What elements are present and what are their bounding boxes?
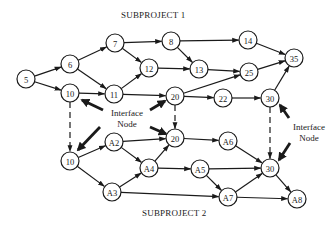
edge-25-to-35 [258,61,285,70]
edge-14-to-35 [256,43,285,54]
edge-7-to-8 [124,41,162,42]
node-label: 12 [145,64,154,74]
node-11-subproject1: 11 [105,85,123,103]
edge-12-to-13 [158,68,190,69]
interface-node-label-left-line1: Interface [111,108,143,118]
edge-20-to-22 [184,96,214,97]
node-label: A6 [223,137,233,147]
edge-8-to-13 [177,47,192,62]
edge-10-to-11 [79,93,105,94]
edge-7-to-12 [122,48,141,62]
edge-A7-to-A8 [237,197,288,198]
node-30-subproject1: 30 [261,89,279,107]
node-label: A8 [292,195,302,205]
node-label: 35 [290,54,299,64]
node-label: 7 [113,39,117,49]
node-label: 22 [219,94,228,104]
interface-pointer-arrow [78,127,100,150]
edge-30-to-A8 [276,175,291,192]
edge-A5-to-A7 [206,175,221,190]
interface-node-label-right-line1: Interface [293,122,325,132]
network-diagram: 56710111281314253520223010A2A3A420A6A530… [0,0,335,228]
edge-A4-to-20 [155,145,169,161]
node-label: A4 [144,164,155,174]
node-label: 11 [110,90,118,100]
edge-A2-to-A4 [121,147,141,162]
edge-8-to-14 [180,40,239,41]
node-A6-subproject2: A6 [219,132,237,150]
interface-pointer-arrow [280,105,289,118]
node-label: 20 [171,92,180,102]
node-7-subproject1: 7 [106,34,124,52]
node-label: 10 [66,89,75,99]
node-label: 13 [195,65,204,75]
edge-11-to-20 [123,94,166,95]
interface-pointer-arrow [82,100,103,110]
edge-20-to-25 [184,75,240,93]
node-30-subproject2: 30 [261,159,279,177]
edge-30-to-35 [275,66,289,90]
node-label: 8 [169,37,173,47]
interface-pointer-arrow [150,101,165,110]
node-label: 25 [245,68,254,78]
edge-11-to-12 [121,74,141,89]
node-A7-subproject2: A7 [219,188,237,206]
node-A2-subproject2: A2 [105,133,123,151]
node-5-subproject1: 5 [17,70,35,88]
node-label: 30 [266,94,275,104]
node-label: 5 [24,75,28,85]
node-label: 6 [68,60,72,70]
node-A4-subproject2: A4 [140,159,158,177]
interface-node-label-left-line2: Node [117,119,137,129]
node-14-subproject1: 14 [239,31,257,49]
node-A8-subproject2: A8 [288,190,306,208]
node-8-subproject1: 8 [162,32,180,50]
edge-A5-to-30 [209,168,261,169]
node-label: A2 [109,138,119,148]
node-label: A5 [195,165,205,175]
node-12-subproject1: 12 [140,59,158,77]
edge-5-to-10 [35,82,61,90]
node-20-subproject2: 20 [166,129,184,147]
subproject-2-title: SUBPROJECT 2 [142,208,207,218]
node-label: 30 [266,164,275,174]
edge-A2-to-20 [123,139,166,142]
node-13-subproject1: 13 [190,60,208,78]
node-A3-subproject2: A3 [103,183,121,201]
edge-6-to-11 [77,69,106,89]
edge-A3-to-A4 [120,173,141,187]
node-6-subproject1: 6 [61,55,79,73]
edge-20-to-A6 [184,139,219,141]
interface-pointer-arrow [150,127,166,134]
interface-pointer-arrow [279,143,290,160]
node-label: A3 [107,188,117,198]
interface-pointer-arrows [78,100,290,160]
edge-A3-to-A7 [121,192,219,196]
edge-10-to-A3 [77,166,104,186]
node-label: A7 [223,193,233,203]
node-10-subproject2: 10 [61,152,79,170]
edge-13-to-25 [208,70,240,72]
interface-node-label-right-line2: Node [299,133,319,143]
edge-10-to-A2 [78,146,105,158]
node-label: 10 [66,157,75,167]
node-25-subproject1: 25 [240,63,258,81]
edge-A6-to-30 [236,146,262,163]
node-label: 20 [171,134,180,144]
node-35-subproject1: 35 [285,49,303,67]
activity-nodes: 56710111281314253520223010A2A3A420A6A530… [17,31,306,208]
edge-A4-to-A5 [158,168,191,169]
node-10-subproject1: 10 [61,84,79,102]
node-A5-subproject2: A5 [191,160,209,178]
node-22-subproject1: 22 [214,89,232,107]
node-20-subproject1: 20 [166,87,184,105]
edge-5-to-6 [35,67,61,76]
edge-A7-to-30 [235,173,262,191]
subproject-1-title: SUBPROJECT 1 [121,10,186,20]
edge-6-to-7 [78,47,106,60]
node-label: 14 [244,36,253,46]
